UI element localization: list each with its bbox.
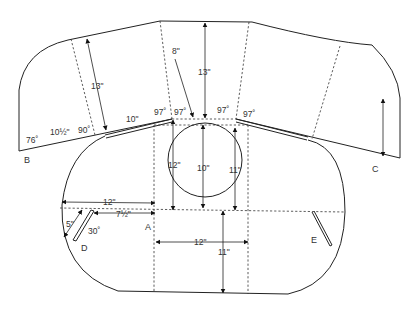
dim-bottom-width: 12" bbox=[194, 237, 206, 247]
pattern-diagram: 76˚ 10½" 90˚ 10" 13" 97˚ 97˚ 97˚ 97˚ 8" … bbox=[0, 0, 407, 309]
angle-center-right-outer: 97˚ bbox=[243, 109, 255, 119]
dim-bottom-height: 11" bbox=[218, 247, 230, 257]
dim-circle-center: 10" bbox=[197, 163, 209, 173]
dim-circle-left: 12" bbox=[168, 160, 180, 170]
angle-slot-d: 30˚ bbox=[88, 226, 100, 236]
body-fold-grid bbox=[60, 125, 345, 294]
top-flap-folds bbox=[71, 21, 340, 139]
dim-slot-depth: 5" bbox=[66, 219, 74, 229]
dim-center-offset: 8" bbox=[172, 46, 180, 56]
angle-center-right-inner: 97˚ bbox=[217, 105, 229, 115]
body-outline bbox=[62, 136, 345, 294]
dim-slot-offset: 7½" bbox=[116, 209, 131, 219]
angle-left-fold: 90˚ bbox=[78, 125, 90, 135]
angle-center-left-outer: 97˚ bbox=[154, 107, 166, 117]
dim-circle-right: 11" bbox=[229, 165, 241, 175]
dim-center-flap-height: 13" bbox=[198, 67, 210, 77]
point-e: E bbox=[311, 235, 317, 245]
point-d: D bbox=[81, 243, 88, 253]
point-b: B bbox=[24, 155, 30, 165]
dim-left-flap-height: 13" bbox=[91, 81, 103, 91]
angle-left-corner: 76˚ bbox=[26, 135, 38, 145]
labels: 76˚ 10½" 90˚ 10" 13" 97˚ 97˚ 97˚ 97˚ 8" … bbox=[24, 46, 379, 257]
dim-left-base-fraction: 10½" bbox=[50, 127, 70, 137]
point-a: A bbox=[145, 222, 151, 232]
top-flap-outline bbox=[19, 21, 400, 158]
point-c: C bbox=[372, 164, 379, 174]
dim-left-width: 12" bbox=[103, 197, 115, 207]
angle-center-left-inner: 97˚ bbox=[174, 107, 186, 117]
dim-left-base-segment: 10" bbox=[126, 114, 138, 124]
